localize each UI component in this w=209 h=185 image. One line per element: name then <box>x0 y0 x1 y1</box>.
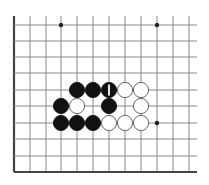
go-board[interactable] <box>0 0 209 185</box>
white-stone[interactable] <box>117 82 132 97</box>
white-stone[interactable] <box>133 115 148 130</box>
white-stone[interactable] <box>133 82 148 97</box>
black-stone[interactable] <box>85 82 100 97</box>
black-stone[interactable] <box>53 115 68 130</box>
star-point <box>155 121 159 125</box>
white-stone[interactable] <box>69 98 84 113</box>
white-stone[interactable] <box>117 115 132 130</box>
white-stone[interactable] <box>101 115 116 130</box>
black-stone[interactable] <box>53 98 68 113</box>
black-stone[interactable] <box>69 115 84 130</box>
black-stone[interactable] <box>101 82 116 97</box>
black-stone[interactable] <box>85 115 100 130</box>
star-point <box>155 23 159 27</box>
black-stone[interactable] <box>69 82 84 97</box>
move-number-marker <box>108 85 110 96</box>
star-point <box>59 23 63 27</box>
black-stone[interactable] <box>101 98 116 113</box>
white-stone[interactable] <box>133 98 148 113</box>
